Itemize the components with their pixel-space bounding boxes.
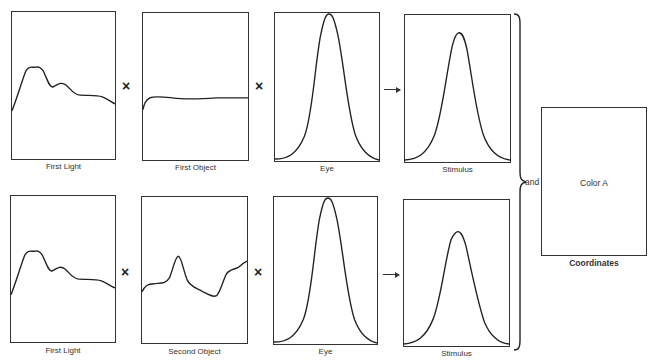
stimulus-curve-row2 <box>404 200 509 346</box>
first-light-curve-row2 <box>11 196 115 342</box>
color-a-text: Color A <box>542 178 646 188</box>
panel-second-object-row2 <box>141 196 248 344</box>
panel-eye-row2 <box>273 196 378 345</box>
arrow-icon-row1 <box>384 89 400 90</box>
multiply-icon-row1-a: × <box>122 79 130 93</box>
first-light-curve <box>12 12 115 159</box>
label-stimulus-row1: Stimulus <box>404 165 511 174</box>
and-text: and <box>525 177 539 187</box>
label-eye-row2: Eye <box>273 347 378 356</box>
multiply-icon-row1-b: × <box>255 79 263 93</box>
eye-curve-row2 <box>274 197 377 344</box>
panel-first-light-row2 <box>10 195 116 343</box>
multiply-icon-row2-a: × <box>121 265 129 279</box>
label-eye-row1: Eye <box>274 164 380 173</box>
label-second-object-row2: Second Object <box>141 347 248 356</box>
panel-stimulus-row2 <box>403 199 510 347</box>
label-stimulus-row2: Stimulus <box>403 349 510 358</box>
first-object-curve <box>143 13 248 160</box>
label-first-light-row1: First Light <box>11 162 116 171</box>
panel-stimulus-row1 <box>404 14 511 163</box>
arrow-icon-row2 <box>383 274 399 275</box>
multiply-icon-row2-b: × <box>254 265 262 279</box>
label-first-object-row1: First Object <box>142 163 249 172</box>
label-first-light-row2: First Light <box>10 346 116 355</box>
panel-eye-row1 <box>274 12 380 162</box>
second-object-curve <box>142 197 247 343</box>
label-coordinates: Coordinates <box>541 258 647 268</box>
panel-first-light-row1 <box>11 11 116 160</box>
panel-first-object-row1 <box>142 12 249 161</box>
panel-color-a: Color A <box>541 107 647 256</box>
stimulus-curve <box>405 15 510 162</box>
eye-curve <box>275 13 379 161</box>
